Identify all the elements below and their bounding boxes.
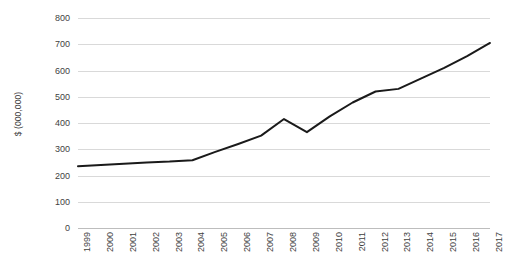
x-tick-label-2007: 2007 (265, 232, 275, 252)
x-axis-tick-labels: 1999200020012002200320042005200620072008… (78, 228, 490, 273)
y-tick-label-700: 700 (55, 39, 70, 49)
x-tick-label-2000: 2000 (105, 232, 115, 252)
y-axis-title: $ (000,000) (0, 0, 36, 228)
series-line-revenue (78, 18, 490, 228)
y-tick-label-0: 0 (65, 223, 70, 233)
y-axis-tick-labels: 0100200300400500600700800 (36, 0, 74, 273)
y-tick-label-200: 200 (55, 171, 70, 181)
x-tick-label-2004: 2004 (196, 232, 206, 252)
y-tick-label-100: 100 (55, 197, 70, 207)
y-tick-label-300: 300 (55, 144, 70, 154)
x-tick-label-2003: 2003 (174, 232, 184, 252)
x-tick-label-2016: 2016 (471, 232, 481, 252)
y-tick-label-800: 800 (55, 13, 70, 23)
x-tick-label-1999: 1999 (82, 232, 92, 252)
x-tick-label-2013: 2013 (402, 232, 412, 252)
y-tick-label-500: 500 (55, 92, 70, 102)
y-tick-label-600: 600 (55, 66, 70, 76)
x-tick-label-2012: 2012 (380, 232, 390, 252)
x-tick-label-2015: 2015 (448, 232, 458, 252)
x-tick-label-2014: 2014 (425, 232, 435, 252)
y-tick-label-400: 400 (55, 118, 70, 128)
x-tick-label-2011: 2011 (357, 232, 367, 251)
plot-area (78, 18, 490, 228)
x-tick-label-2017: 2017 (494, 232, 504, 252)
x-tick-label-2009: 2009 (311, 232, 321, 252)
y-axis-title-label: $ (000,000) (13, 92, 23, 137)
x-tick-label-2006: 2006 (242, 232, 252, 252)
x-tick-label-2005: 2005 (219, 232, 229, 252)
x-tick-label-2001: 2001 (128, 232, 138, 252)
x-tick-label-2010: 2010 (334, 232, 344, 252)
x-tick-label-2008: 2008 (288, 232, 298, 252)
line-chart-figure: $ (000,000) 0100200300400500600700800 19… (0, 0, 508, 273)
x-tick-label-2002: 2002 (151, 232, 161, 252)
series-polyline (78, 43, 490, 166)
